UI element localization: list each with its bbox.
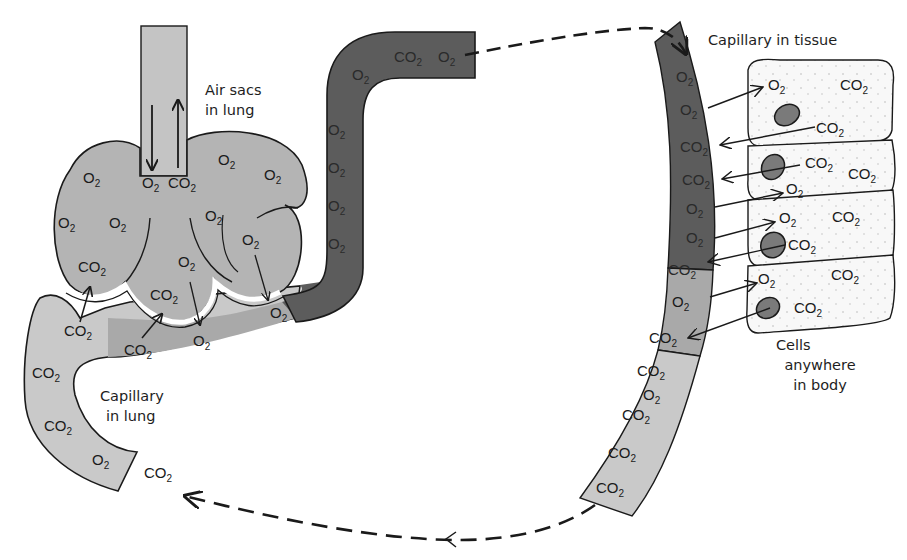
exhaled-co2-label: CO2 bbox=[144, 464, 173, 484]
capillary-in-tissue bbox=[580, 22, 715, 516]
flow-arrow-to-tissue bbox=[465, 28, 686, 55]
label-capillary-in-lung: Capillary in lung bbox=[100, 386, 164, 426]
label-air-sacs: Air sacs in lung bbox=[205, 80, 262, 120]
label-capillary-in-tissue: Capillary in tissue bbox=[708, 30, 837, 50]
gas-exchange-diagram: O2 CO2 O2 O2 O2 O2 O2 O2 O2 O2 CO2 CO2 C… bbox=[0, 0, 907, 560]
label-cells-anywhere-in-body: Cells anywhere in body bbox=[770, 335, 870, 395]
tissue-cell-4 bbox=[747, 255, 895, 333]
oxygenated-vessel bbox=[283, 32, 475, 322]
airway bbox=[141, 26, 187, 176]
flow-arrow-to-lung bbox=[185, 496, 595, 540]
